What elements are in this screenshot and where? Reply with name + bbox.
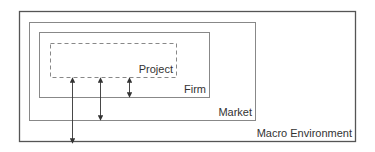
project-label: Project <box>139 63 173 75</box>
macro-environment-box: Macro Environment <box>20 12 356 142</box>
firm-box: Firm <box>40 33 210 98</box>
firm-label: Firm <box>184 83 206 95</box>
project-box: Project <box>51 44 177 78</box>
nested-environment-diagram: Macro Environment Market Firm Project <box>0 0 375 152</box>
macro-environment-label: Macro Environment <box>257 127 352 139</box>
arrows <box>73 80 130 141</box>
market-label: Market <box>218 106 252 118</box>
